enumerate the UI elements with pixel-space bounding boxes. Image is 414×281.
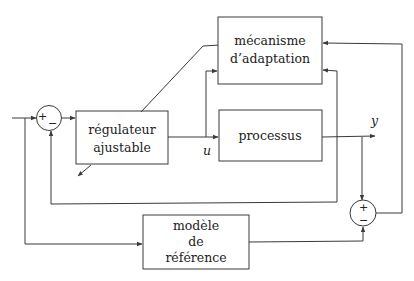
plus-sign: +: [38, 110, 47, 123]
output-signal-line: [322, 136, 375, 137]
mrac-block-diagram: + − régulateur ajustable u mécanisme d’a…: [0, 0, 414, 281]
input-summing-junction: + −: [37, 106, 62, 131]
minus-sign: −: [359, 214, 368, 227]
reference-label-line1: modèle: [173, 218, 219, 233]
adaptation-label-line1: mécanisme: [234, 33, 305, 48]
output-to-adaptation-line: [323, 70, 337, 137]
adjustment-arrow-tail: [78, 165, 91, 176]
process-label: processus: [238, 128, 301, 143]
regulator-block: régulateur ajustable: [76, 111, 168, 164]
plus-sign: +: [359, 201, 368, 214]
regulator-label-line1: régulateur: [88, 122, 155, 137]
adaptation-label-line2: d’adaptation: [230, 51, 310, 66]
control-to-adaptation-line: [206, 71, 217, 137]
output-signal-label: y: [370, 113, 379, 128]
reference-label-line2: de: [188, 234, 203, 249]
process-block: processus: [219, 110, 322, 161]
control-signal-label: u: [203, 143, 211, 158]
reference-output-line: [249, 227, 363, 242]
adaptation-mechanism-block: mécanisme d’adaptation: [218, 17, 322, 84]
reference-label-line3: référence: [165, 250, 226, 265]
error-summing-junction: + −: [350, 200, 376, 227]
adjustment-arrow: [141, 45, 220, 112]
reference-model-block: modèle de référence: [143, 215, 249, 269]
regulator-label-line2: ajustable: [93, 140, 151, 155]
minus-sign: −: [48, 117, 57, 130]
